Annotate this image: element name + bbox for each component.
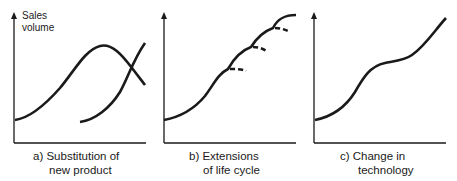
- panel-c-caption-line1: c) Change in: [340, 149, 405, 163]
- panel-c-axes: [314, 17, 446, 143]
- panel-b-y-arrow-icon: [161, 12, 167, 19]
- y-axis-label-volume: volume: [22, 22, 54, 33]
- panel-a-y-arrow-icon: [11, 12, 17, 19]
- panel-a-caption-line1: a) Substitution of: [33, 149, 119, 163]
- panel-a-substitute-product-curve: [80, 43, 145, 122]
- panel-b-caption-line2: of life cycle: [203, 163, 260, 177]
- panel-b-extended-life-cycle-curve: [164, 15, 296, 120]
- panel-c-y-arrow-icon: [311, 12, 317, 19]
- panel-a-caption-line2: new product: [49, 163, 112, 177]
- panel-c-technology-change-curve: [315, 18, 446, 120]
- y-axis-label-sales: Sales: [22, 10, 47, 21]
- panel-b-axes: [164, 17, 296, 143]
- panel-c-caption-line2: technology: [358, 163, 414, 177]
- panel-b-caption-line1: b) Extensions: [189, 149, 259, 163]
